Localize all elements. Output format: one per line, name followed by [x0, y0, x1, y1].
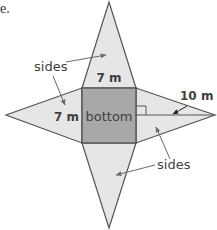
- label-slant-height: 10 m: [180, 89, 213, 103]
- pyramid-net-diagram: bottom 7 m 7 m 10 m sides sides: [0, 0, 217, 230]
- label-top-edge: 7 m: [96, 71, 121, 85]
- side-face-bottom: [82, 143, 136, 228]
- label-sides-top-left: sides: [34, 59, 68, 74]
- label-bottom: bottom: [85, 109, 132, 124]
- label-sides-bottom-right: sides: [157, 157, 191, 172]
- label-left-edge: 7 m: [54, 110, 79, 124]
